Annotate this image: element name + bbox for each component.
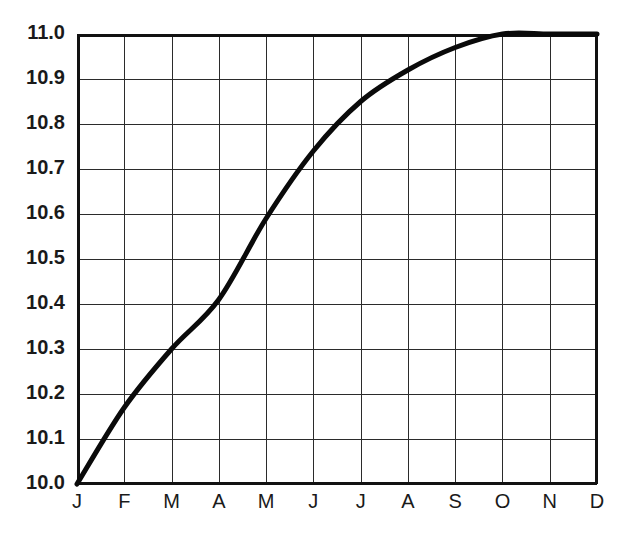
y-tick-label: 11.0	[27, 21, 65, 43]
y-tick-label: 10.0	[26, 471, 65, 493]
x-tick-label: M	[163, 490, 180, 512]
y-tick-label: 10.8	[26, 111, 65, 133]
y-tick-label: 10.1	[26, 426, 65, 448]
y-tick-label: 10.6	[26, 201, 65, 223]
x-tick-label: J	[356, 490, 366, 512]
line-chart: 10.010.110.210.310.410.510.610.710.810.9…	[0, 0, 637, 538]
x-tick-label: O	[495, 490, 511, 512]
x-tick-label: N	[543, 490, 557, 512]
y-tick-label: 10.3	[26, 336, 65, 358]
y-tick-label: 10.4	[26, 291, 66, 313]
x-tick-label: F	[118, 490, 130, 512]
chart-container: 10.010.110.210.310.410.510.610.710.810.9…	[0, 0, 637, 538]
y-tick-label: 10.7	[26, 156, 65, 178]
y-tick-label: 10.5	[26, 246, 65, 268]
x-tick-label: S	[449, 490, 462, 512]
x-tick-label: J	[72, 490, 82, 512]
x-tick-label: A	[401, 490, 415, 512]
x-tick-label: D	[590, 490, 604, 512]
x-tick-label: M	[258, 490, 275, 512]
x-tick-label: J	[308, 490, 318, 512]
y-tick-label: 10.2	[26, 381, 65, 403]
y-tick-label: 10.9	[26, 66, 65, 88]
x-tick-label: A	[212, 490, 226, 512]
